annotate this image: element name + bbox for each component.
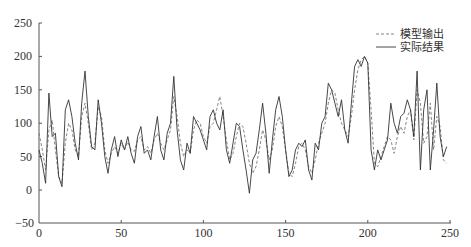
- y-tick-label: 150: [14, 83, 32, 97]
- y-tick-label: 250: [14, 16, 32, 30]
- y-ticks: 250 200 150 100 50 0 −50: [14, 16, 42, 230]
- actual-result-line: [39, 56, 447, 193]
- x-tick-label: 50: [115, 226, 127, 240]
- x-tick-label: 250: [441, 226, 459, 240]
- y-tick-label: 200: [14, 49, 32, 63]
- y-tick-label: 0: [26, 183, 32, 197]
- line-chart: 250 200 150 100 50 0 −50 0 50 100 150 20…: [0, 0, 471, 247]
- x-tick-label: 200: [359, 226, 377, 240]
- y-tick-label: −50: [15, 216, 34, 230]
- x-tick-label: 0: [36, 226, 42, 240]
- x-tick-label: 150: [277, 226, 295, 240]
- x-tick-label: 100: [194, 226, 212, 240]
- model-output-line: [39, 56, 447, 183]
- y-tick-label: 100: [14, 116, 32, 130]
- legend: 模型输出 实际结果: [376, 27, 444, 53]
- legend-label-actual-result: 实际结果: [400, 40, 444, 53]
- legend-label-model-output: 模型输出: [400, 27, 444, 40]
- y-tick-label: 50: [20, 150, 32, 164]
